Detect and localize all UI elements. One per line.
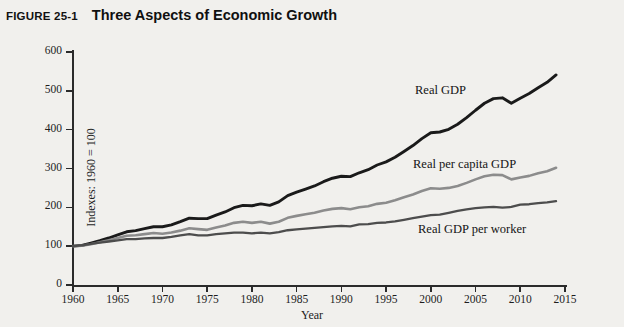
x-tick-2010 [519, 286, 521, 292]
x-tick-1970 [162, 286, 164, 292]
page-bleed-through [0, 313, 624, 327]
y-tick-label-400: 400 [16, 122, 62, 134]
x-tick-1990 [341, 286, 343, 292]
y-tick-400 [66, 129, 73, 131]
y-tick-300 [66, 168, 73, 170]
x-tick-label-1970: 1970 [140, 293, 184, 305]
x-tick-label-1985: 1985 [275, 293, 319, 305]
figure-title: Three Aspects of Economic Growth [92, 7, 337, 23]
y-tick-label-200: 200 [16, 199, 62, 211]
figure-number: FIGURE 25-1 [6, 10, 78, 22]
x-tick-label-1960: 1960 [51, 293, 95, 305]
x-axis-line [72, 285, 567, 287]
x-tick-1965 [117, 286, 119, 292]
x-tick-label-2010: 2010 [498, 293, 542, 305]
y-tick-label-300: 300 [16, 161, 62, 173]
x-tick-label-1990: 1990 [319, 293, 363, 305]
series-label-real-gdp-per-worker: Real GDP per worker [418, 222, 526, 237]
x-tick-label-2005: 2005 [454, 293, 498, 305]
y-tick-label-0: 0 [16, 277, 62, 289]
x-tick-label-1980: 1980 [230, 293, 274, 305]
y-tick-label-600: 600 [16, 44, 62, 56]
x-tick-2005 [475, 286, 477, 292]
y-tick-500 [66, 90, 73, 92]
y-tick-200 [66, 207, 73, 209]
x-tick-1980 [251, 286, 253, 292]
x-tick-1995 [385, 286, 387, 292]
series-label-real-gdp: Real GDP [415, 83, 466, 98]
x-tick-1985 [296, 286, 298, 292]
x-tick-label-2000: 2000 [409, 293, 453, 305]
x-tick-label-2015: 2015 [543, 293, 587, 305]
x-tick-2015 [564, 286, 566, 292]
x-tick-1975 [206, 286, 208, 292]
x-tick-1960 [72, 286, 74, 292]
x-tick-label-1995: 1995 [364, 293, 408, 305]
x-tick-label-1975: 1975 [185, 293, 229, 305]
y-tick-100 [66, 245, 73, 247]
y-tick-label-100: 100 [16, 238, 62, 250]
x-tick-2000 [430, 286, 432, 292]
x-tick-label-1965: 1965 [96, 293, 140, 305]
figure-container: FIGURE 25-1Three Aspects of Economic Gro… [0, 0, 624, 327]
y-tick-600 [66, 51, 73, 53]
y-tick-label-500: 500 [16, 83, 62, 95]
series-label-real-per-capita-gdp: Real per capita GDP [413, 157, 516, 172]
y-axis-label: Indexes: 1960 = 100 [84, 98, 99, 258]
figure-header: FIGURE 25-1Three Aspects of Economic Gro… [6, 6, 337, 24]
